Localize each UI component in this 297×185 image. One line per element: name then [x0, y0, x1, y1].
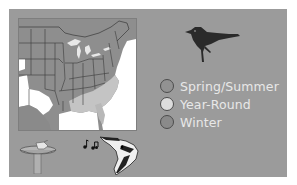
bird-feeder-icon	[18, 140, 62, 174]
legend-item-spring-summer: Spring/Summer	[160, 77, 279, 95]
legend: Spring/Summer Year-Round Winter	[160, 77, 279, 131]
legend-label: Winter	[180, 115, 222, 130]
legend-item-year-round: Year-Round	[160, 95, 279, 113]
swatch-year-round-icon	[160, 97, 174, 111]
swatch-spring-summer-icon	[160, 79, 174, 93]
range-map	[18, 18, 137, 131]
legend-item-winter: Winter	[160, 113, 279, 131]
bird-silhouette-icon	[183, 22, 245, 62]
swatch-winter-icon	[160, 115, 174, 129]
legend-label: Spring/Summer	[180, 79, 279, 94]
legend-label: Year-Round	[180, 97, 251, 112]
range-map-icon	[19, 19, 136, 130]
music-notes-icon	[82, 138, 100, 150]
woodpecker-head-icon	[100, 135, 140, 175]
